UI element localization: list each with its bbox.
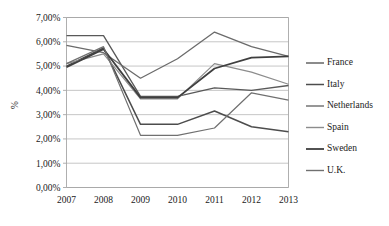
y-tick-label: 7,00% <box>36 13 61 23</box>
x-tick-label: 2012 <box>242 195 261 205</box>
series-line <box>67 47 289 136</box>
chart-legend: FranceItalyNetherlandsSpainSwedenU.K. <box>306 57 373 175</box>
series-line <box>67 54 289 99</box>
y-axis-title: % <box>10 101 20 109</box>
chart-canvas: 0,00%1,00%2,00%3,00%4,00%5,00%6,00%7,00%… <box>0 0 389 226</box>
x-tick-label: 2011 <box>205 195 224 205</box>
x-tick-label: 2013 <box>279 195 298 205</box>
legend-label: Italy <box>327 79 345 89</box>
legend-label: Sweden <box>327 143 357 153</box>
legend-label: Spain <box>327 122 349 132</box>
y-tick-label: 0,00% <box>36 183 61 193</box>
legend-label: U.K. <box>327 165 345 175</box>
legend-label: Netherlands <box>327 100 373 110</box>
gridlines <box>67 18 289 188</box>
series-lines <box>67 32 289 135</box>
x-tick-label: 2007 <box>57 195 76 205</box>
x-tick-label: 2009 <box>131 195 150 205</box>
axis-lines <box>63 18 289 188</box>
y-tick-label: 3,00% <box>36 110 61 120</box>
y-axis-tick-labels: 0,00%1,00%2,00%3,00%4,00%5,00%6,00%7,00% <box>36 13 61 193</box>
legend-label: France <box>327 57 353 67</box>
line-chart: 0,00%1,00%2,00%3,00%4,00%5,00%6,00%7,00%… <box>0 0 389 226</box>
y-tick-label: 5,00% <box>36 61 61 71</box>
y-tick-label: 4,00% <box>36 86 61 96</box>
x-tick-label: 2008 <box>94 195 113 205</box>
y-tick-label: 6,00% <box>36 37 61 47</box>
x-axis-tick-labels: 2007200820092010201120122013 <box>57 195 298 205</box>
x-tick-label: 2010 <box>168 195 187 205</box>
y-tick-label: 1,00% <box>36 159 61 169</box>
y-tick-label: 2,00% <box>36 134 61 144</box>
